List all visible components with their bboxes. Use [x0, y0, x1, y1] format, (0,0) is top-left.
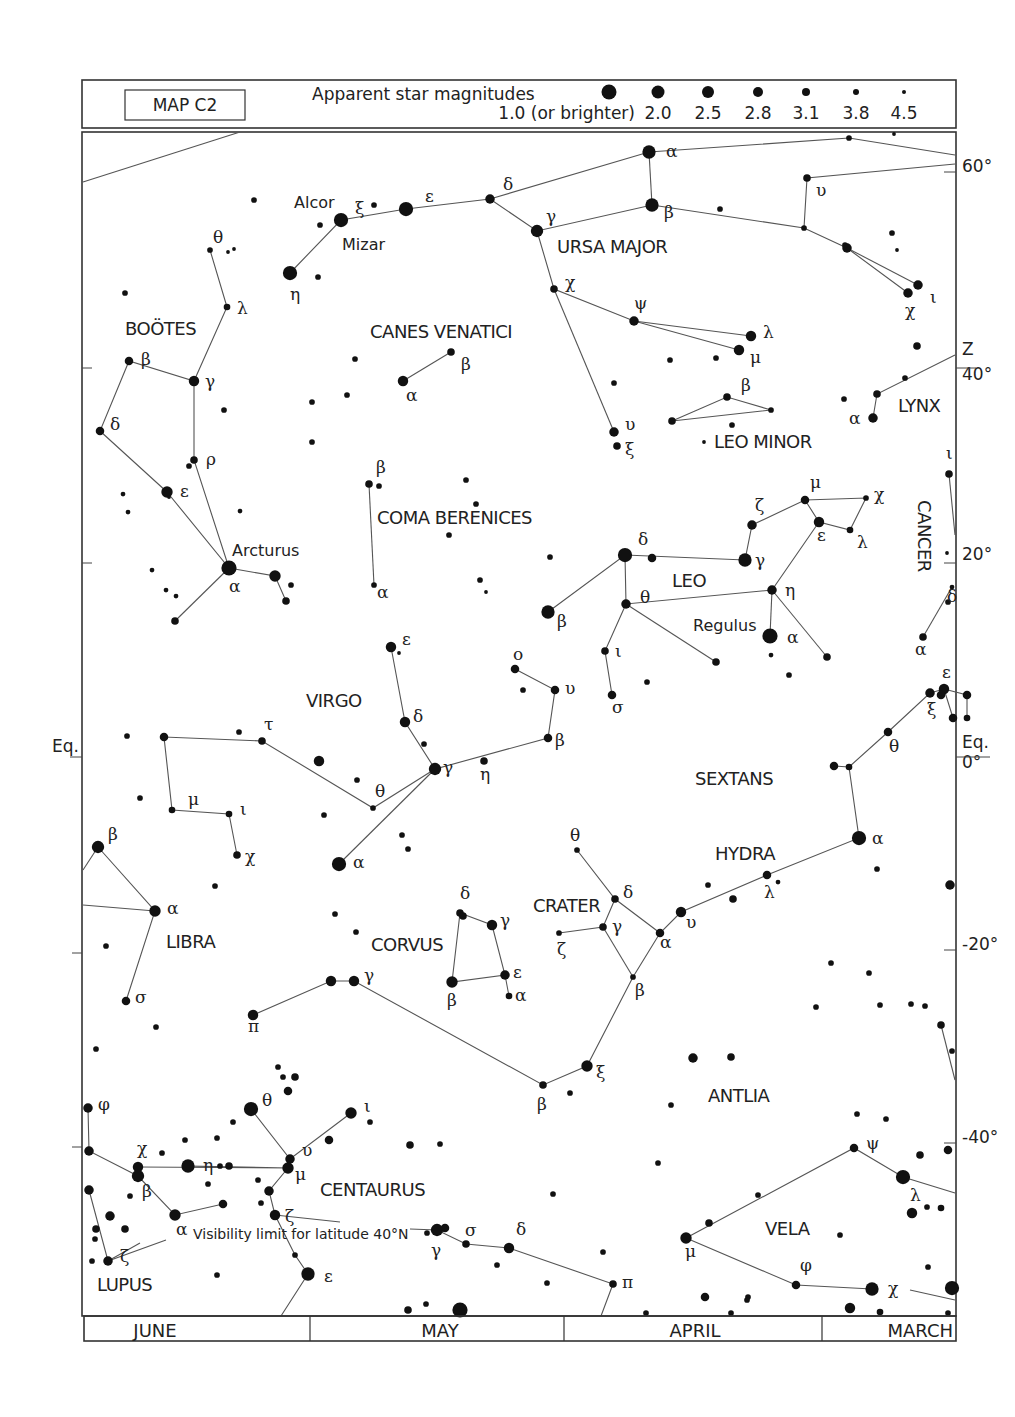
star-icon — [121, 492, 126, 497]
star-icon — [846, 764, 853, 771]
star-icon — [217, 1163, 223, 1169]
star-icon — [877, 1002, 883, 1008]
star-icon — [613, 442, 621, 450]
greek-label: α — [915, 639, 927, 659]
constellation-line — [138, 1166, 290, 1168]
greek-label: μ — [295, 1164, 306, 1184]
greek-label: χ — [245, 846, 255, 866]
constellation-line — [634, 321, 739, 350]
month-march: MARCH — [887, 1320, 953, 1341]
star-icon — [301, 1267, 314, 1280]
star-icon — [945, 551, 949, 555]
star-icon — [447, 348, 455, 356]
star-name-label: Alcor — [294, 193, 335, 212]
constellation-line — [649, 152, 652, 205]
constellation-label: LEO MINOR — [714, 431, 812, 452]
star-icon — [149, 905, 160, 916]
constellation-line — [554, 289, 614, 432]
star-icon — [747, 520, 757, 530]
constellation-label: CENTAURUS — [320, 1179, 425, 1200]
greek-label: χ — [888, 1278, 898, 1298]
greek-label: α — [666, 141, 678, 161]
declination-label: Z — [962, 339, 974, 359]
star-name-label: Arcturus — [232, 541, 299, 560]
star-icon — [600, 1249, 606, 1255]
star-icon — [325, 1136, 334, 1145]
constellation-label: LEO — [672, 570, 706, 591]
constellation-label: BOÖTES — [125, 318, 196, 339]
star-icon — [551, 686, 560, 695]
star-icon — [845, 1303, 855, 1313]
star-icon — [205, 1181, 211, 1187]
constellation-line — [849, 689, 967, 767]
star-icon — [520, 687, 526, 693]
star-icon — [181, 1159, 194, 1172]
star-icon — [317, 222, 323, 228]
month-april: APRIL — [669, 1320, 720, 1341]
star-icon — [830, 762, 839, 771]
star-icon — [484, 590, 488, 594]
constellation-line — [164, 737, 435, 855]
star-icon — [280, 1074, 286, 1080]
star-icon — [922, 1003, 928, 1009]
greek-label: θ — [213, 227, 223, 247]
greek-label: γ — [431, 1240, 441, 1260]
star-icon — [236, 729, 242, 735]
greek-label: α — [849, 408, 861, 428]
map-id: MAP C2 — [153, 95, 218, 115]
star-icon — [459, 912, 467, 920]
star-icon — [913, 342, 921, 350]
star-icon — [164, 588, 169, 593]
star-icon — [642, 145, 655, 158]
greek-label: ο — [513, 644, 523, 664]
star-icon — [233, 851, 241, 859]
star-icon — [544, 1280, 550, 1286]
greek-label: θ — [570, 825, 580, 845]
star-icon — [945, 470, 953, 478]
greek-label: ζ — [755, 495, 764, 515]
greek-label: λ — [763, 322, 774, 342]
star-icon — [531, 225, 543, 237]
star-icon — [429, 763, 441, 775]
greek-label: α — [515, 985, 527, 1005]
greek-label: α — [406, 385, 418, 405]
greek-label: μ — [750, 347, 761, 367]
declination-label: 40° — [962, 364, 992, 384]
star-icon — [539, 1081, 547, 1089]
star-icon — [83, 1103, 93, 1113]
star-icon — [284, 1087, 293, 1096]
star-icon — [399, 202, 413, 216]
star-icon — [334, 213, 348, 227]
star-icon — [717, 206, 723, 212]
star-icon — [556, 930, 562, 936]
greek-label: γ — [443, 757, 453, 777]
greek-label: ψ — [866, 1133, 879, 1153]
greek-label: ζ — [120, 1246, 129, 1266]
greek-label: ε — [402, 629, 411, 649]
star-icon — [889, 230, 895, 236]
greek-label: σ — [465, 1220, 477, 1240]
star-icon — [137, 795, 143, 801]
greek-label: π — [248, 1016, 259, 1036]
greek-label: β — [376, 457, 386, 477]
greek-label: μ — [188, 789, 199, 809]
constellation-label: LIBRA — [166, 931, 216, 952]
greek-label: β — [664, 202, 674, 222]
star-icon — [477, 577, 483, 583]
constellation-label: URSA MAJOR — [557, 236, 667, 257]
star-icon — [225, 1162, 233, 1170]
greek-label: δ — [638, 529, 648, 549]
greek-label: ι — [364, 1096, 371, 1116]
star-icon — [386, 642, 396, 652]
star-icon — [485, 194, 495, 204]
star-icon — [169, 807, 176, 814]
star-icon — [801, 496, 810, 505]
greek-label: ξ — [596, 1062, 605, 1082]
greek-label: θ — [889, 736, 899, 756]
star-greek-labels: αβγδεξηυιχχψλμυξβαθλβγδρεαβαβαδμχζελγθηα… — [98, 141, 957, 1298]
legend-star-icon — [602, 85, 617, 100]
star-icon — [269, 570, 280, 581]
star-icon — [667, 357, 673, 363]
constellation-line — [452, 913, 505, 982]
star-icon — [744, 1297, 750, 1303]
